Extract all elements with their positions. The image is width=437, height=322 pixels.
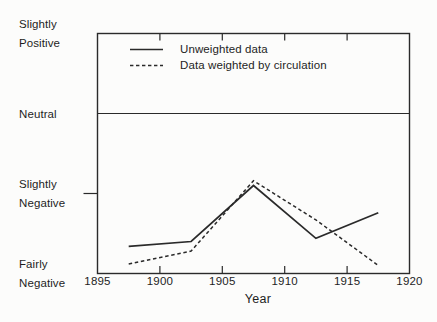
y-axis-category-label: Slightly Positive xyxy=(19,15,85,53)
legend-item: Unweighted data xyxy=(130,41,327,57)
y-axis-category-label: Slightly Negative xyxy=(19,175,85,213)
x-axis-tick-label: 1920 xyxy=(396,275,422,287)
series-line-unweighted xyxy=(129,186,379,247)
x-axis-tick-label: 1895 xyxy=(84,275,110,287)
x-axis-title: Year xyxy=(245,292,271,306)
legend-label: Data weighted by circulation xyxy=(180,59,327,71)
legend-line-sample-solid xyxy=(130,47,163,52)
x-axis-tick-label: 1910 xyxy=(271,275,297,287)
legend-line-sample-dashed xyxy=(130,63,163,68)
y-axis-category-label: Fairly Negative xyxy=(19,255,85,293)
x-axis-tick-label: 1905 xyxy=(209,275,235,287)
legend-label: Unweighted data xyxy=(180,43,268,55)
x-axis-tick-label: 1915 xyxy=(334,275,360,287)
y-axis-category-label: Neutral xyxy=(19,104,85,123)
legend-item: Data weighted by circulation xyxy=(130,57,327,73)
x-axis-tick-label: 1900 xyxy=(147,275,173,287)
chart-legend: Unweighted dataData weighted by circulat… xyxy=(130,41,327,73)
series-line-weighted xyxy=(129,181,379,266)
line-chart-figure: Slightly PositiveNeutralSlightly Negativ… xyxy=(0,0,437,322)
